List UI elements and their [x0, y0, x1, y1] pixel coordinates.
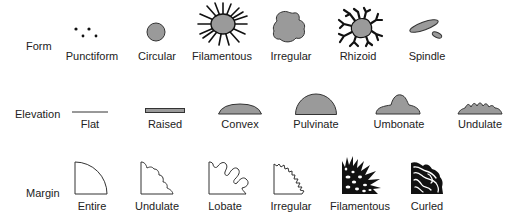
punctiform-shape	[70, 24, 100, 44]
caption-lobate: Lobate	[208, 200, 242, 212]
caption-circular: Circular	[138, 50, 176, 62]
caption-irregular-form: Irregular	[271, 50, 312, 62]
filamentous-margin-shape	[340, 155, 382, 195]
caption-undulate-elevation: Undulate	[458, 118, 502, 130]
filamentous-form-shape	[197, 2, 249, 46]
caption-filamentous-form: Filamentous	[192, 50, 252, 62]
caption-rhizoid: Rhizoid	[340, 50, 377, 62]
lobate-shape	[208, 161, 250, 195]
row-label-elevation: Elevation	[15, 108, 60, 120]
circular-shape	[145, 21, 167, 43]
caption-spindle: Spindle	[409, 50, 446, 62]
convex-shape	[218, 103, 262, 115]
irregular-margin-shape	[273, 161, 307, 195]
flat-shape	[72, 110, 108, 114]
undulate-elevation-shape	[457, 100, 503, 115]
rhizoid-shape	[338, 8, 384, 46]
caption-irregular-margin: Irregular	[271, 200, 312, 212]
raised-shape	[145, 108, 185, 114]
caption-convex: Convex	[221, 118, 258, 130]
pulvinate-shape	[295, 93, 337, 115]
curled-shape	[410, 161, 444, 195]
caption-pulvinate: Pulvinate	[293, 118, 338, 130]
caption-filamentous-margin: Filamentous	[330, 200, 390, 212]
caption-raised: Raised	[148, 118, 182, 130]
caption-curled: Curled	[411, 200, 443, 212]
caption-undulate-margin: Undulate	[135, 200, 179, 212]
spindle-shape	[410, 18, 444, 40]
umbonate-shape	[375, 93, 421, 115]
row-label-form: Form	[26, 40, 52, 52]
caption-punctiform: Punctiform	[66, 50, 119, 62]
undulate-margin-shape	[140, 161, 174, 195]
entire-margin-shape	[74, 161, 108, 195]
caption-flat: Flat	[81, 118, 99, 130]
row-label-margin: Margin	[26, 187, 60, 199]
caption-entire: Entire	[78, 200, 107, 212]
irregular-form-shape	[272, 10, 308, 44]
caption-umbonate: Umbonate	[374, 118, 425, 130]
